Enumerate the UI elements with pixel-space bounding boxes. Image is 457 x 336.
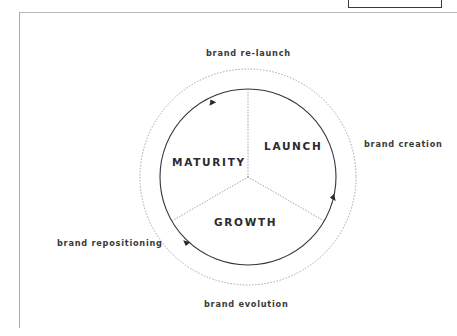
segment-label-growth: GROWTH — [214, 217, 277, 228]
outer-label-brand-evolution: brand evolution — [204, 300, 289, 308]
spoke-down-left — [172, 177, 248, 221]
outer-label-brand-repositioning: brand repositioning — [57, 239, 163, 247]
segment-label-launch: LAUNCH — [264, 141, 323, 152]
spoke-down-right — [248, 177, 324, 221]
outer-label-brand-creation: brand creation — [364, 140, 443, 148]
segment-divider-spokes — [172, 89, 324, 221]
arrowhead-upper-left — [209, 99, 217, 106]
outer-label-brand-relaunch: brand re-launch — [206, 49, 291, 57]
segment-label-maturity: MATURITY — [172, 157, 246, 168]
